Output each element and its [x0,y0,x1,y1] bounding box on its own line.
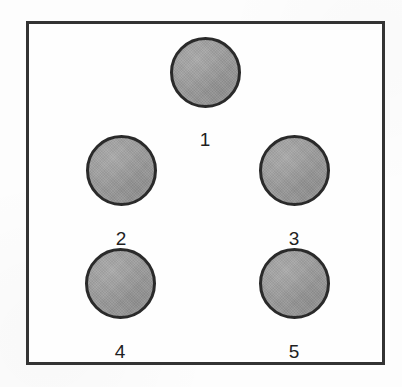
circle-item-4[interactable] [85,248,156,319]
scan-surface: 12345 [0,0,402,387]
circle-label-2: 2 [101,229,141,248]
circle-shape-3[interactable] [259,135,330,206]
circle-shape-1[interactable] [170,37,241,108]
circle-label-5: 5 [274,342,314,361]
circle-label-3: 3 [274,229,314,248]
diagram-frame: 12345 [26,21,385,365]
circle-item-2[interactable] [86,135,157,206]
circle-shape-5[interactable] [259,248,330,319]
circle-shape-4[interactable] [85,248,156,319]
circle-label-1: 1 [185,130,225,149]
circle-shape-2[interactable] [86,135,157,206]
circle-item-5[interactable] [259,248,330,319]
circle-item-1[interactable] [170,37,241,108]
circle-item-3[interactable] [259,135,330,206]
circle-label-4: 4 [100,342,140,361]
